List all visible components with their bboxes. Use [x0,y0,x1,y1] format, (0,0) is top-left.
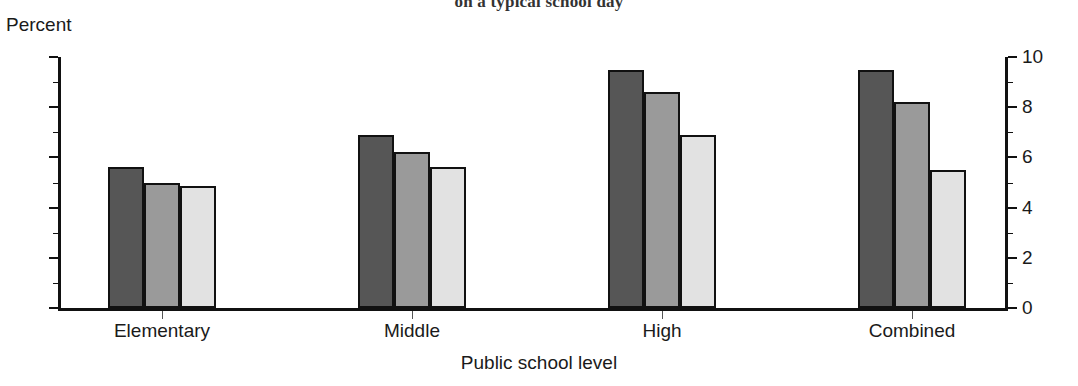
category-label-middle: Middle [384,320,440,342]
y-axis-right-minor-tick [1008,233,1013,234]
x-axis-tick [412,311,413,319]
x-axis-tick [162,311,163,319]
y-axis-right-tick-label: 2 [1022,248,1062,267]
y-axis-right-major-tick [1008,307,1017,309]
plot-area: 10108866442200 ElementaryMiddleHighCombi… [58,57,1008,308]
bar-middle-series-3-light [430,167,466,308]
x-axis-line [58,308,1008,311]
y-axis-right-minor-tick [1008,132,1013,133]
bar-elementary-series-2-medium [144,183,180,309]
y-axis-right-major-tick [1008,207,1017,209]
x-axis-tick [662,311,663,319]
category-label-combined: Combined [869,320,956,342]
y-axis-right-minor-tick [1008,283,1013,284]
bar-middle-series-1-dark [358,135,394,308]
y-axis-left-major-tick [49,106,58,108]
bar-combined-series-3-light [930,170,966,308]
chart-page: on a typical school day Percent 10108866… [0,0,1078,386]
y-axis-right-major-tick [1008,56,1017,58]
bar-middle-series-2-medium [394,152,430,308]
y-axis-left-major-tick [49,307,58,309]
y-axis-right-minor-tick [1008,183,1013,184]
y-axis-right-tick-label: 8 [1022,97,1062,116]
y-axis-right-major-tick [1008,257,1017,259]
y-axis-left-major-tick [49,156,58,158]
y-axis-right-tick-label: 0 [1022,298,1062,317]
x-axis-tick [912,311,913,319]
chart-title: on a typical school day [0,0,1078,12]
y-axis-left-major-tick [49,207,58,209]
bar-combined-series-2-medium [894,102,930,308]
bar-elementary-series-3-light [180,186,216,308]
y-axis-right-tick-label: 4 [1022,198,1062,217]
category-label-high: High [642,320,681,342]
x-axis-title: Public school level [0,352,1078,374]
category-label-elementary: Elementary [114,320,210,342]
bar-combined-series-1-dark [858,70,894,308]
y-axis-title: Percent [6,14,71,36]
bar-high-series-2-medium [644,92,680,308]
bar-high-series-3-light [680,135,716,308]
y-axis-right-major-tick [1008,156,1017,158]
y-axis-right-tick-label: 6 [1022,147,1062,166]
bar-elementary-series-1-dark [108,167,144,308]
y-axis-right-major-tick [1008,106,1017,108]
y-axis-left-major-tick [49,257,58,259]
bar-high-series-1-dark [608,70,644,308]
y-axis-right-tick-label: 10 [1022,47,1062,66]
y-axis-right-minor-tick [1008,82,1013,83]
y-axis-left-major-tick [49,56,58,58]
bars-layer [58,57,1008,308]
